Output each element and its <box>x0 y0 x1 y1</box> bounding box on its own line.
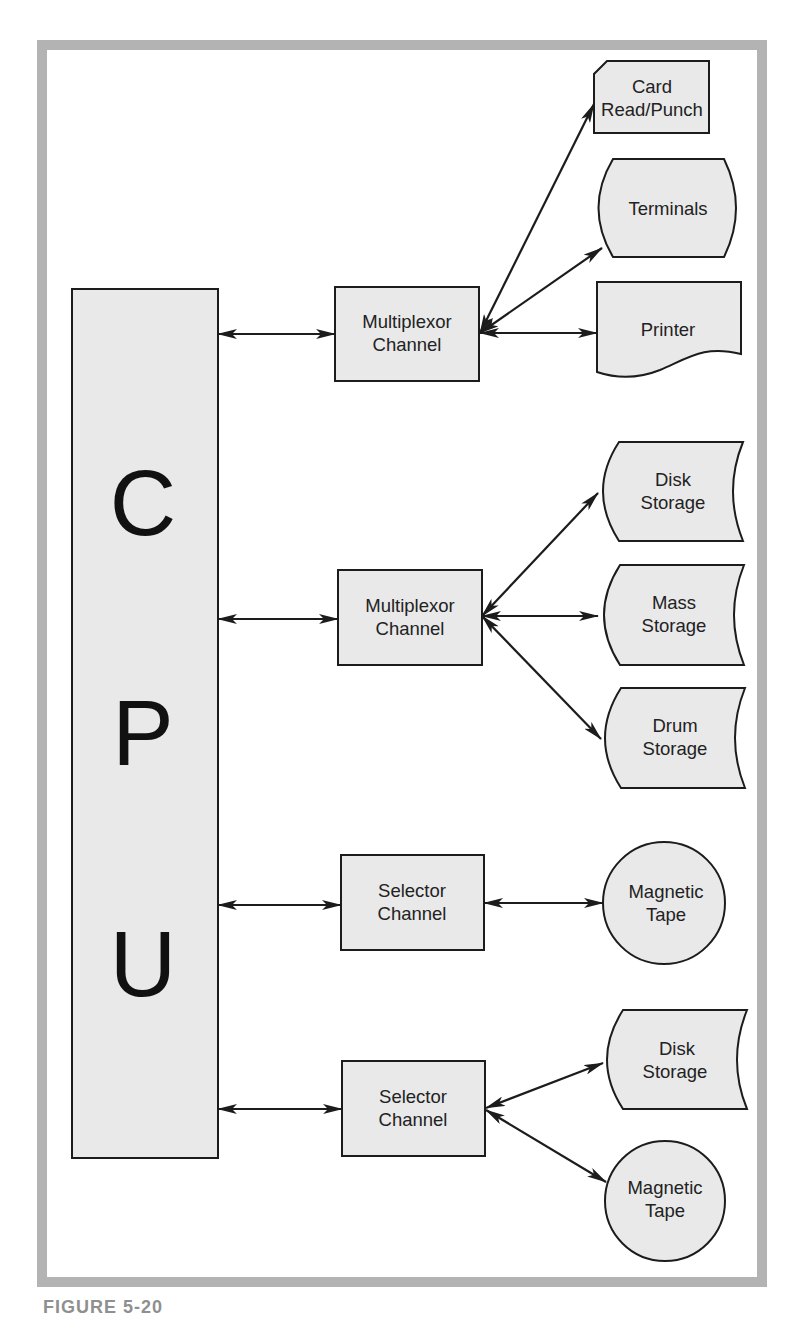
device-label-line2: Tape <box>646 904 686 925</box>
device-label-line1: Printer <box>641 319 696 340</box>
device-label-line2: Read/Punch <box>601 99 703 120</box>
connector-mux2-disk <box>482 493 598 616</box>
device-terminals: Terminals <box>599 159 737 257</box>
multiplexor-channel-1: Multiplexor Channel <box>335 287 479 381</box>
channel-label-line1: Multiplexor <box>365 595 454 616</box>
device-label-line2: Storage <box>643 1061 708 1082</box>
channel-label-line2: Channel <box>379 1109 448 1130</box>
cpu-block: C P U <box>72 289 218 1158</box>
channel-label-line1: Multiplexor <box>362 311 451 332</box>
selector-channel-1: Selector Channel <box>341 855 484 950</box>
cpu-letter-c: C <box>110 452 176 554</box>
multiplexor-channel-2: Multiplexor Channel <box>338 570 482 665</box>
device-label-line1: Drum <box>652 715 697 736</box>
device-card-read-punch: Card Read/Punch <box>594 61 709 133</box>
device-label-line1: Disk <box>655 469 692 490</box>
device-mass-storage: Mass Storage <box>604 565 744 665</box>
device-magnetic-tape-2: Magnetic Tape <box>605 1141 725 1261</box>
device-printer: Printer <box>597 282 741 377</box>
device-label-line2: Storage <box>643 738 708 759</box>
device-label-line1: Magnetic <box>627 1177 702 1198</box>
channel-label-line2: Channel <box>373 334 442 355</box>
device-label-line1: Disk <box>659 1038 696 1059</box>
device-label-line1: Card <box>632 76 672 97</box>
cpu-letter-p: P <box>112 682 173 784</box>
connector-sel2-tape <box>486 1110 606 1182</box>
device-magnetic-tape-1: Magnetic Tape <box>603 842 725 964</box>
device-label-line1: Magnetic <box>628 881 703 902</box>
selector-channel-2: Selector Channel <box>342 1061 485 1156</box>
device-label-line2: Storage <box>642 615 707 636</box>
connector-sel2-disk <box>486 1063 603 1108</box>
device-drum-storage: Drum Storage <box>605 688 745 788</box>
connector-mux1-terminals <box>480 248 602 333</box>
device-disk-storage-1: Disk Storage <box>603 442 743 541</box>
connector-mux2-drum <box>482 616 601 739</box>
channel-label-line1: Selector <box>378 880 446 901</box>
io-channel-diagram: C P U Multiplexor Channel Multiplexor Ch… <box>0 0 801 1332</box>
channel-label-line2: Channel <box>378 903 447 924</box>
device-label-line1: Mass <box>652 592 696 613</box>
connector-mux1-card <box>480 104 594 333</box>
device-label-line1: Terminals <box>628 198 707 219</box>
device-label-line2: Storage <box>641 492 706 513</box>
channel-label-line2: Channel <box>376 618 445 639</box>
device-disk-storage-2: Disk Storage <box>607 1010 747 1109</box>
device-label-line2: Tape <box>645 1200 685 1221</box>
channel-label-line1: Selector <box>379 1086 447 1107</box>
figure-caption: FIGURE 5-20 <box>43 1297 163 1318</box>
cpu-letter-u: U <box>110 913 176 1015</box>
